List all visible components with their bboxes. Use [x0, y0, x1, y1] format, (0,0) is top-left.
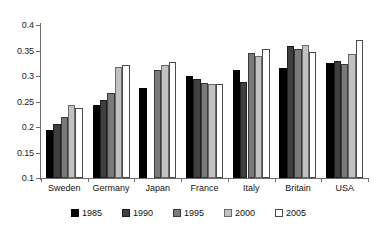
legend-swatch-icon: [122, 209, 130, 217]
legend-label: 2005: [286, 208, 306, 218]
x-axis-tick-mark: [228, 178, 229, 182]
x-axis-tick-label: Britain: [285, 183, 311, 193]
bar-group: [228, 25, 275, 178]
legend-item[interactable]: 2000: [224, 208, 255, 218]
bar: [93, 105, 100, 178]
legend-swatch-icon: [71, 209, 79, 217]
bar-group: [275, 25, 322, 178]
bar: [279, 68, 286, 178]
legend-swatch-icon: [224, 209, 232, 217]
x-axis-tick-mark: [321, 178, 322, 182]
bar: [53, 124, 60, 178]
legend-item[interactable]: 1985: [71, 208, 102, 218]
bar-group: [321, 25, 368, 178]
y-axis-tick-label: 0.4: [22, 20, 34, 30]
bar-group: [88, 25, 135, 178]
bar: [248, 53, 255, 178]
bar: [240, 82, 247, 178]
x-axis-tick-mark: [88, 178, 89, 182]
bar: [348, 54, 355, 178]
x-axis-tick-mark: [134, 178, 135, 182]
bar-group: [41, 25, 88, 178]
y-axis-tick-label: 0.25: [17, 97, 34, 107]
x-axis-tick-mark: [275, 178, 276, 182]
bar: [201, 83, 208, 178]
bar: [75, 108, 82, 178]
bar-chart: 0.10.150.20.250.30.350.4 SwedenGermanyJa…: [0, 0, 377, 235]
y-axis-tick-mark: [36, 25, 40, 26]
x-axis-tick-mark: [368, 178, 369, 182]
bar: [161, 65, 168, 178]
y-axis-tick-mark: [36, 76, 40, 77]
y-axis-tick-label: 0.35: [17, 46, 34, 56]
y-axis-tick-mark: [36, 51, 40, 52]
bar: [115, 67, 122, 178]
x-axis-tick-label: France: [190, 183, 218, 193]
bar: [255, 56, 262, 178]
legend-label: 1990: [133, 208, 153, 218]
y-axis-tick-mark: [36, 178, 40, 179]
legend-label: 1985: [82, 208, 102, 218]
x-axis-line: [40, 178, 369, 179]
y-axis-tick-label: 0.3: [22, 71, 34, 81]
legend-label: 1995: [184, 208, 204, 218]
legend-item[interactable]: 2005: [275, 208, 306, 218]
y-axis-tick-mark: [36, 127, 40, 128]
y-axis-tick-label: 0.15: [17, 148, 34, 158]
x-axis-tick-label: Japan: [146, 183, 171, 193]
chart-title: [0, 0, 377, 3]
bar: [139, 88, 146, 178]
plot-area: [41, 25, 368, 178]
x-axis-tick-mark: [181, 178, 182, 182]
bar: [341, 64, 348, 178]
legend-swatch-icon: [275, 209, 283, 217]
bar: [287, 46, 294, 178]
y-axis-tick-label: 0.1: [22, 173, 34, 183]
bar: [326, 63, 333, 178]
bar: [61, 117, 68, 178]
bar: [107, 93, 114, 178]
bar: [186, 76, 193, 178]
chart-legend: 19851990199520002005: [0, 208, 377, 218]
bar: [262, 49, 269, 178]
bar: [309, 52, 316, 178]
y-axis-tick-label: 0.2: [22, 122, 34, 132]
bar: [302, 45, 309, 178]
bar: [122, 65, 129, 178]
bar: [216, 84, 223, 178]
legend-label: 2000: [235, 208, 255, 218]
bar: [68, 105, 75, 178]
bar-group: [181, 25, 228, 178]
legend-swatch-icon: [173, 209, 181, 217]
bar: [193, 79, 200, 178]
bar: [334, 61, 341, 178]
x-axis-tick-label: Germany: [93, 183, 130, 193]
bar: [154, 70, 161, 178]
x-axis-tick-label: Sweden: [48, 183, 81, 193]
bar: [100, 100, 107, 178]
bar: [169, 62, 176, 178]
bar: [208, 84, 215, 178]
bar: [294, 49, 301, 178]
x-axis-tick-mark: [41, 178, 42, 182]
legend-item[interactable]: 1990: [122, 208, 153, 218]
y-axis-tick-mark: [36, 153, 40, 154]
bar: [233, 70, 240, 178]
y-axis-tick-mark: [36, 102, 40, 103]
bar: [46, 130, 53, 178]
bar: [356, 40, 363, 178]
legend-item[interactable]: 1995: [173, 208, 204, 218]
bar-group: [134, 25, 181, 178]
x-axis-tick-label: USA: [335, 183, 354, 193]
x-axis-tick-label: Italy: [243, 183, 260, 193]
